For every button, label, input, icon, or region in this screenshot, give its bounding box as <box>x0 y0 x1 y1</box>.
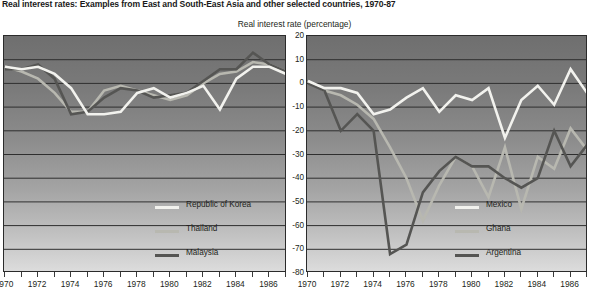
x-tick <box>356 272 357 277</box>
x-tick <box>553 272 554 277</box>
x-tick <box>219 272 220 277</box>
x-tick <box>252 272 253 277</box>
x-tick <box>307 272 308 277</box>
x-tick-label: 1972 <box>28 279 47 289</box>
legend-swatch <box>455 206 479 209</box>
x-tick <box>103 272 104 277</box>
x-tick-label: 1982 <box>495 279 514 289</box>
x-tick <box>323 272 324 277</box>
legend-swatch <box>155 230 179 233</box>
x-tick-label: 1970 <box>298 279 317 289</box>
x-tick-label: 1978 <box>127 279 146 289</box>
y-tick-label: -80 <box>292 268 304 277</box>
chart-title: Real interest rates: Examples from East … <box>2 0 587 9</box>
x-tick-label: 1986 <box>560 279 579 289</box>
x-tick <box>169 272 170 277</box>
y-tick-label: -70 <box>292 244 304 253</box>
x-tick-label: 1984 <box>226 279 245 289</box>
y-tick-label: 0 <box>299 78 304 87</box>
legend-label: Mexico <box>486 200 512 209</box>
y-tick-label: -40 <box>292 173 304 182</box>
y-tick-label: -60 <box>292 220 304 229</box>
x-axis-right: 197019721974197619781980198219841986 <box>306 272 587 294</box>
y-axis: 20100-10-20-30-40-50-60-70-80 <box>286 30 306 278</box>
x-tick <box>340 272 341 277</box>
y-tick-label: 20 <box>295 31 304 40</box>
legend-swatch <box>155 254 179 257</box>
x-tick <box>268 272 269 277</box>
x-tick <box>537 272 538 277</box>
plot-area-right <box>306 35 587 272</box>
x-tick <box>504 272 505 277</box>
x-tick <box>54 272 55 277</box>
x-tick <box>4 272 5 277</box>
x-axis-left: 197019721974197619781980198219841986 <box>3 272 286 294</box>
x-tick-label: 1984 <box>527 279 546 289</box>
x-tick-label: 1974 <box>363 279 382 289</box>
x-tick-label: 1976 <box>396 279 415 289</box>
x-tick-label: 1974 <box>61 279 80 289</box>
x-tick <box>153 272 154 277</box>
x-tick-label: 1976 <box>94 279 113 289</box>
x-tick <box>471 272 472 277</box>
x-tick <box>570 272 571 277</box>
x-tick-label: 1986 <box>259 279 278 289</box>
legend-label: Republic of Korea <box>186 200 251 209</box>
x-tick <box>422 272 423 277</box>
x-tick-label: 1982 <box>193 279 212 289</box>
chart-panel-left <box>3 35 286 272</box>
chart-page: Real interest rates: Examples from East … <box>0 0 589 294</box>
legend-swatch <box>155 206 179 209</box>
x-tick <box>438 272 439 277</box>
x-tick <box>120 272 121 277</box>
x-tick <box>520 272 521 277</box>
legend-swatch <box>455 230 479 233</box>
legend-label: Malaysia <box>186 248 218 257</box>
x-tick-label: 1972 <box>330 279 349 289</box>
legend-label: Ghana <box>486 224 511 233</box>
y-tick-label: -10 <box>292 102 304 111</box>
x-tick <box>586 272 587 277</box>
x-tick <box>405 272 406 277</box>
x-tick <box>186 272 187 277</box>
legend-swatch <box>455 254 479 257</box>
x-tick-label: 1970 <box>0 279 13 289</box>
y-tick-label: 10 <box>295 54 304 63</box>
y-axis-caption: Real interest rate (percentage) <box>0 19 589 29</box>
x-tick <box>455 272 456 277</box>
x-tick-label: 1980 <box>462 279 481 289</box>
x-tick <box>235 272 236 277</box>
x-tick <box>285 272 286 277</box>
x-tick <box>373 272 374 277</box>
y-tick-label: -20 <box>292 125 304 134</box>
y-tick-label: -50 <box>292 196 304 205</box>
x-tick-label: 1980 <box>160 279 179 289</box>
y-tick-label: -30 <box>292 149 304 158</box>
legend-label: Argentina <box>486 248 521 257</box>
x-tick <box>136 272 137 277</box>
legend-label: Thailand <box>186 224 217 233</box>
x-tick <box>37 272 38 277</box>
x-tick <box>202 272 203 277</box>
x-tick <box>488 272 489 277</box>
x-tick-label: 1978 <box>429 279 448 289</box>
x-tick <box>70 272 71 277</box>
x-tick <box>87 272 88 277</box>
chart-panel-right <box>306 35 587 272</box>
plot-area-left <box>3 35 286 272</box>
series-line-mexico <box>308 69 587 138</box>
x-tick <box>389 272 390 277</box>
x-tick <box>21 272 22 277</box>
